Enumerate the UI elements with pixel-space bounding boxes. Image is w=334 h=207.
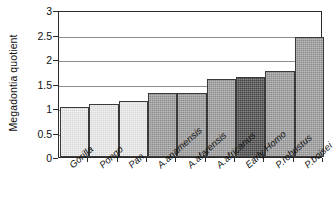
y-axis-tick-label: 2	[34, 55, 52, 66]
bar-texture	[120, 102, 147, 156]
y-axis-tick-labels: 00.511.522.53	[34, 11, 52, 158]
y-axis-tick-label: 1	[34, 104, 52, 115]
y-axis-title-text: Megadontia quotient	[7, 34, 19, 131]
y-axis-title: Megadontia quotient	[0, 0, 26, 165]
megadontia-quotient-bar-chart: Megadontia quotient 00.511.522.53 Gorill…	[0, 0, 334, 207]
y-axis-tick-label: 1.5	[34, 80, 52, 91]
y-axis-tick-label: 3	[34, 6, 52, 17]
x-axis-category-labels: GorillaPongoPanA.anamensisA.afarensisA.a…	[58, 160, 334, 207]
y-axis-tick-label: 2.5	[34, 31, 52, 42]
y-axis-tick-label: 0	[34, 153, 52, 164]
y-axis-tick-label: 0.5	[34, 129, 52, 140]
